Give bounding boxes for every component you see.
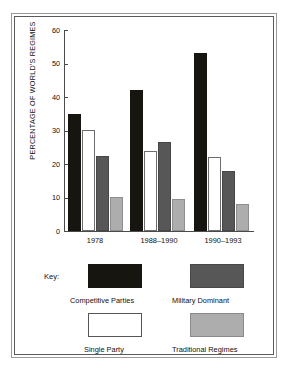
bar xyxy=(82,130,95,231)
bar xyxy=(158,142,171,231)
x-tick-label-3: 1990–1993 xyxy=(190,236,256,245)
bar-series-layer xyxy=(64,30,254,231)
bar xyxy=(222,171,235,231)
y-tick-label-10: 10 xyxy=(40,194,60,201)
legend-swatch-single-party xyxy=(88,313,142,337)
x-tick-label-2: 1988–1990 xyxy=(126,236,192,245)
bar xyxy=(208,157,221,231)
bar xyxy=(236,204,249,231)
bar xyxy=(96,156,109,231)
chart-page: PERCENTAGE OF WORLD'S REGIMES 60 50 40 3… xyxy=(0,0,292,374)
legend-label-traditional-regimes: Traditional Regimes xyxy=(172,345,237,354)
y-tick-label-50: 50 xyxy=(40,60,60,67)
y-tick-label-40: 40 xyxy=(40,94,60,101)
y-tick-label-0: 0 xyxy=(40,228,60,235)
legend-label-single-party: Single Party xyxy=(84,345,124,354)
chart-legend: Key: Competitive Parties Military Domina… xyxy=(14,258,274,355)
plot-area: PERCENTAGE OF WORLD'S REGIMES 60 50 40 3… xyxy=(14,16,274,256)
x-tick-label-1: 1978 xyxy=(64,236,126,245)
legend-label-competitive-parties: Competitive Parties xyxy=(70,296,134,305)
legend-title: Key: xyxy=(44,272,59,281)
legend-swatch-military-dominant xyxy=(190,264,244,288)
legend-swatch-competitive-parties xyxy=(88,264,142,288)
bar xyxy=(144,151,157,231)
y-tick-label-60: 60 xyxy=(40,27,60,34)
bar xyxy=(110,197,123,231)
y-tick-label-30: 30 xyxy=(40,127,60,134)
x-axis-line xyxy=(64,231,254,232)
legend-swatch-traditional-regimes xyxy=(190,313,244,337)
bar xyxy=(68,114,81,231)
legend-label-military-dominant: Military Dominant xyxy=(172,296,229,305)
bar xyxy=(194,53,207,231)
y-tick-mark xyxy=(64,231,68,232)
y-tick-label-20: 20 xyxy=(40,161,60,168)
bar xyxy=(130,90,143,231)
bar xyxy=(172,199,185,231)
